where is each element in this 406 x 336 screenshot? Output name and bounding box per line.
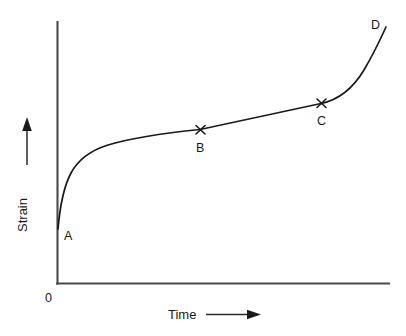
- y-axis-label: Strain: [15, 198, 30, 232]
- point-a-label: A: [64, 229, 73, 243]
- creep-curve-figure: 0 Strain Time A B C D: [0, 0, 406, 336]
- x-axis-arrow-icon: [206, 310, 261, 319]
- y-axis-arrow-icon: [22, 117, 32, 165]
- origin-label: 0: [45, 291, 52, 305]
- creep-curve-plot: 0 Strain Time A B C D: [0, 0, 406, 336]
- x-axis-label: Time: [168, 307, 196, 322]
- point-b-label: B: [196, 141, 204, 155]
- point-d-label: D: [371, 18, 380, 32]
- point-c-label: C: [317, 114, 326, 128]
- creep-curve-path: [58, 27, 386, 229]
